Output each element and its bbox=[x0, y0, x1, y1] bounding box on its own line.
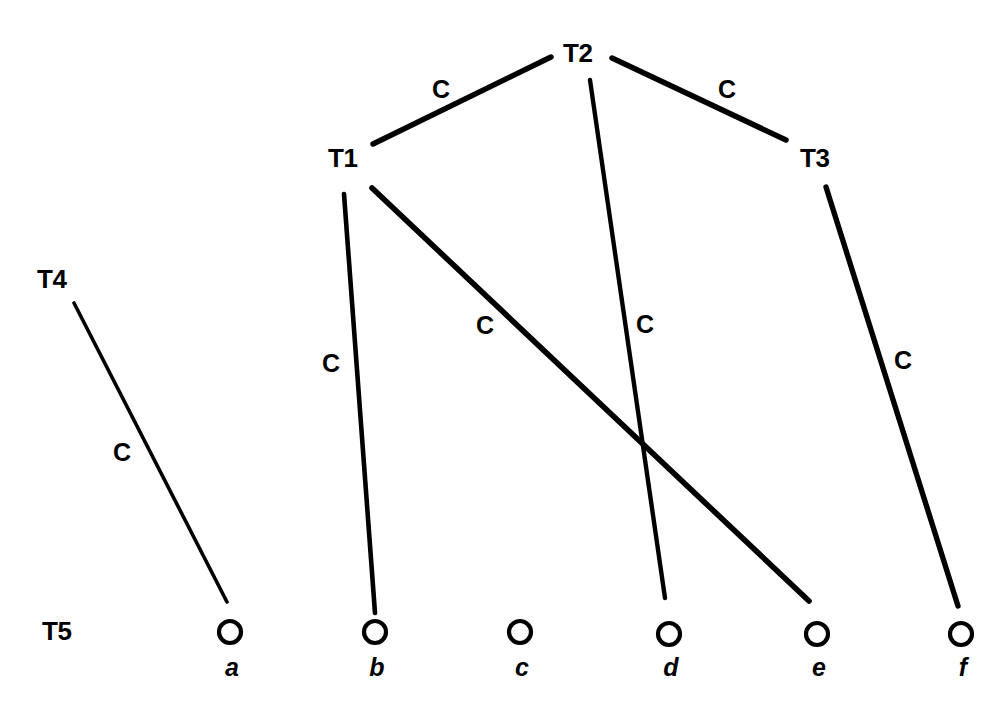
leaf-node-c[interactable] bbox=[509, 621, 531, 643]
level-label-T3: T3 bbox=[800, 143, 829, 173]
leaf-label-d: d bbox=[663, 653, 679, 681]
tree-diagram-canvas: CCCCCCC abcdef T1T2T3T4T5 bbox=[0, 0, 1008, 719]
edge-T2-T3 bbox=[612, 58, 786, 140]
edge-labels-group: CCCCCCC bbox=[113, 75, 912, 466]
leaf-label-b: b bbox=[369, 653, 384, 681]
leaf-node-d[interactable] bbox=[658, 623, 680, 645]
edge-label-T1-b: C bbox=[322, 349, 340, 377]
level-label-T1: T1 bbox=[328, 143, 357, 173]
edge-T3-f bbox=[826, 187, 958, 606]
level-labels-group: T1T2T3T4T5 bbox=[37, 38, 829, 646]
leaf-label-c: c bbox=[515, 653, 529, 681]
edge-label-T1-T2: C bbox=[432, 75, 450, 103]
level-label-T5: T5 bbox=[42, 616, 71, 646]
edge-label-T2-T3: C bbox=[718, 75, 736, 103]
edge-label-T4-a: C bbox=[113, 438, 131, 466]
leaf-node-a[interactable] bbox=[219, 621, 241, 643]
edge-T1-b bbox=[344, 194, 375, 613]
edge-T2-d bbox=[590, 80, 665, 598]
edge-T1-e bbox=[372, 188, 809, 601]
leaf-label-f: f bbox=[959, 653, 970, 681]
edge-label-T1-e: C bbox=[476, 311, 494, 339]
leaf-label-a: a bbox=[225, 653, 239, 681]
leaf-label-e: e bbox=[812, 653, 826, 681]
edge-T4-a bbox=[74, 303, 227, 602]
edge-label-T3-f: C bbox=[894, 346, 912, 374]
leaf-node-e[interactable] bbox=[806, 623, 828, 645]
edge-T1-T2 bbox=[373, 57, 551, 144]
leaf-nodes-group: abcdef bbox=[219, 621, 972, 681]
level-label-T4: T4 bbox=[37, 264, 67, 294]
diagram-svg: CCCCCCC abcdef T1T2T3T4T5 bbox=[0, 0, 1008, 719]
leaf-node-f[interactable] bbox=[950, 623, 972, 645]
leaf-node-b[interactable] bbox=[364, 621, 386, 643]
edges-group bbox=[74, 57, 958, 613]
level-label-T2: T2 bbox=[563, 38, 592, 68]
edge-label-T2-d: C bbox=[636, 310, 654, 338]
